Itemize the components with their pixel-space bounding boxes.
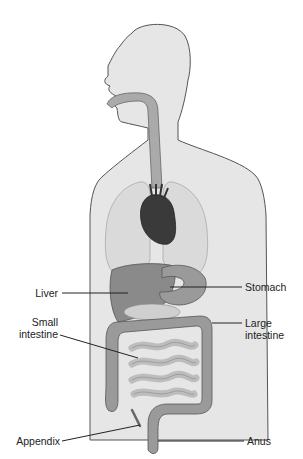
label-stomach: Stomach [245,281,286,293]
label-small-intestine-line1: Small [0,316,58,328]
label-small-intestine-line2: intestine [0,328,58,340]
pancreas [124,304,180,320]
digestive-system-illustration [0,0,303,459]
label-large-intestine-line1: Large [245,317,272,329]
label-liver: Liver [0,287,58,299]
label-anus: Anus [247,435,271,447]
label-appendix: Appendix [0,435,60,447]
label-large-intestine-line2: intestine [245,329,284,341]
